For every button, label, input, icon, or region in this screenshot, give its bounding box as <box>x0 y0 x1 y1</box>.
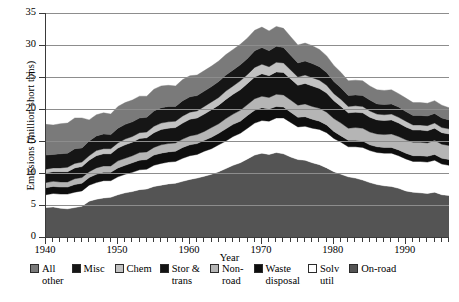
x-tick-minor <box>139 238 140 242</box>
x-tick-minor <box>203 238 204 242</box>
x-tick-minor <box>290 238 291 242</box>
chart-legend: All otherMiscChemStor & transNon- roadWa… <box>30 263 450 297</box>
x-tick-minor <box>88 238 89 242</box>
x-tick-minor <box>59 238 60 242</box>
x-tick-minor <box>426 238 427 242</box>
x-tick-minor <box>211 238 212 242</box>
legend-swatch <box>115 264 124 273</box>
x-tick-minor <box>383 238 384 242</box>
x-tick-minor <box>419 238 420 242</box>
legend-label: Misc <box>84 263 105 275</box>
x-axis-title: Year <box>0 252 459 263</box>
legend-label: Solv util <box>320 263 339 286</box>
gridline <box>46 109 449 110</box>
legend-swatch <box>254 264 263 273</box>
x-tick-minor <box>146 238 147 242</box>
x-tick-minor <box>131 238 132 242</box>
x-tick-minor <box>369 238 370 242</box>
gridline <box>46 13 449 14</box>
x-tick-minor <box>311 238 312 242</box>
x-tick-minor <box>318 238 319 242</box>
x-tick-minor <box>297 238 298 242</box>
x-tick-minor <box>340 238 341 242</box>
x-tick-minor <box>434 238 435 242</box>
y-tick-label: 10 <box>2 167 36 177</box>
x-tick-minor <box>254 238 255 242</box>
legend-label: Stor & trans <box>172 263 200 286</box>
x-tick-minor <box>398 238 399 242</box>
x-tick-minor <box>81 238 82 242</box>
legend-label: Non- road <box>222 263 244 286</box>
x-tick-minor <box>304 238 305 242</box>
y-tick-label: 30 <box>2 39 36 49</box>
x-tick-minor <box>412 238 413 242</box>
x-tick-minor <box>110 238 111 242</box>
legend-label: Waste disposal <box>266 263 300 286</box>
legend-item[interactable]: Solv util <box>308 263 339 286</box>
x-tick-minor <box>160 238 161 242</box>
x-tick-minor <box>376 238 377 242</box>
x-tick-minor <box>282 238 283 242</box>
legend-swatch <box>308 264 317 273</box>
x-tick-minor <box>232 238 233 242</box>
x-tick-minor <box>247 238 248 242</box>
x-tick-minor <box>390 238 391 242</box>
legend-item[interactable]: On-road <box>349 263 396 275</box>
y-tick-label: 15 <box>2 135 36 145</box>
x-tick-minor <box>103 238 104 242</box>
plot-area <box>45 13 449 238</box>
gridline <box>46 141 449 142</box>
x-tick-minor <box>275 238 276 242</box>
legend-label: All other <box>42 263 64 286</box>
x-tick-minor <box>362 238 363 242</box>
legend-item[interactable]: All other <box>30 263 64 286</box>
y-axis: 05101520253035 <box>0 13 45 237</box>
x-tick-minor <box>441 238 442 242</box>
x-tick-minor <box>225 238 226 242</box>
x-tick-minor <box>124 238 125 242</box>
x-tick-minor <box>326 238 327 242</box>
x-tick-minor <box>448 238 449 242</box>
x-tick-minor <box>182 238 183 242</box>
gridline <box>46 173 449 174</box>
x-tick-minor <box>218 238 219 242</box>
x-tick-minor <box>239 238 240 242</box>
legend-swatch <box>160 264 169 273</box>
legend-item[interactable]: Non- road <box>210 263 244 286</box>
legend-label: Chem <box>127 263 152 275</box>
legend-item[interactable]: Chem <box>115 263 152 275</box>
legend-swatch <box>349 264 358 273</box>
y-tick-label: 35 <box>2 7 36 17</box>
x-tick-minor <box>354 238 355 242</box>
gridline <box>46 77 449 78</box>
legend-item[interactable]: Waste disposal <box>254 263 300 286</box>
legend-item[interactable]: Misc <box>72 263 105 275</box>
x-tick-minor <box>347 238 348 242</box>
legend-swatch <box>72 264 81 273</box>
legend-swatch <box>30 264 39 273</box>
gridline <box>46 205 449 206</box>
y-tick-label: 25 <box>2 71 36 81</box>
x-tick-minor <box>67 238 68 242</box>
x-tick-minor <box>196 238 197 242</box>
x-tick-minor <box>268 238 269 242</box>
x-tick-minor <box>74 238 75 242</box>
x-tick-minor <box>167 238 168 242</box>
y-tick-label: 5 <box>2 199 36 209</box>
x-tick-minor <box>175 238 176 242</box>
x-tick-minor <box>95 238 96 242</box>
gridline <box>46 45 449 46</box>
stacked-area-series <box>46 13 449 237</box>
legend-item[interactable]: Stor & trans <box>160 263 200 286</box>
chart-figure: Emissions (million short tons) 051015202… <box>0 0 459 302</box>
x-tick-minor <box>153 238 154 242</box>
y-tick-label: 20 <box>2 103 36 113</box>
y-tick-label: 0 <box>2 231 36 241</box>
legend-swatch <box>210 264 219 273</box>
x-tick-minor <box>52 238 53 242</box>
legend-label: On-road <box>361 263 396 275</box>
